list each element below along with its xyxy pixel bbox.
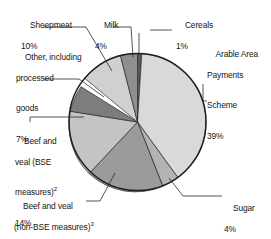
slice-label-sugar-percent: 4% — [224, 224, 255, 234]
slice-label-arable-line3: Scheme — [207, 100, 258, 110]
slice-label-milk-text: Milk — [104, 20, 119, 30]
slice-label-cereals-text: Cereals — [185, 20, 213, 30]
slice-label-nonbse-line2-text: (non-BSE measures) — [14, 222, 90, 232]
slice-label-beef-and-veal-non-bse: Beef and veal (non-BSE measures)3 21% — [14, 191, 94, 239]
slice-label-bse-line2: veal (BSE — [15, 157, 57, 167]
slice-label-arable-area-payments-scheme: Arable Area Payments Scheme 39% — [207, 39, 258, 161]
slice-label-bse-line1: Beef and — [24, 136, 57, 146]
slice-label-nonbse-line1: Beef and veal — [23, 201, 73, 211]
slice-label-milk: Milk 4% — [95, 10, 118, 71]
slice-label-nonbse-footnote: 3 — [90, 221, 93, 227]
slice-label-other-line3: goods — [16, 103, 82, 113]
slice-label-arable-line1: Arable Area — [215, 49, 258, 59]
slice-label-sugar: Sugar 4% — [224, 193, 255, 239]
slice-label-other-line2: processed — [16, 73, 82, 83]
slice-label-sheepmeat-text: Sheepmeat — [30, 20, 72, 30]
slice-label-arable-line2: Payments — [207, 70, 258, 80]
pie-chart-figure: Sheepmeat 10% Milk 4% Cereals 1% Arable … — [0, 0, 271, 239]
slice-label-arable-percent: 39% — [207, 131, 258, 141]
slice-label-nonbse-line2: (non-BSE measures)3 — [14, 222, 94, 232]
slice-label-sugar-text: Sugar — [233, 203, 255, 213]
leader-line-sugar — [169, 178, 222, 196]
slice-label-other-line1: Other, including — [25, 52, 82, 62]
slice-label-milk-percent: 4% — [95, 41, 118, 51]
